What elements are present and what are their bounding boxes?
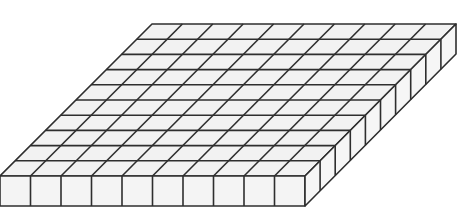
front-face-cells [0,176,305,206]
base-ten-flat-diagram [0,0,463,216]
hundred-flat-drawing [0,0,463,216]
